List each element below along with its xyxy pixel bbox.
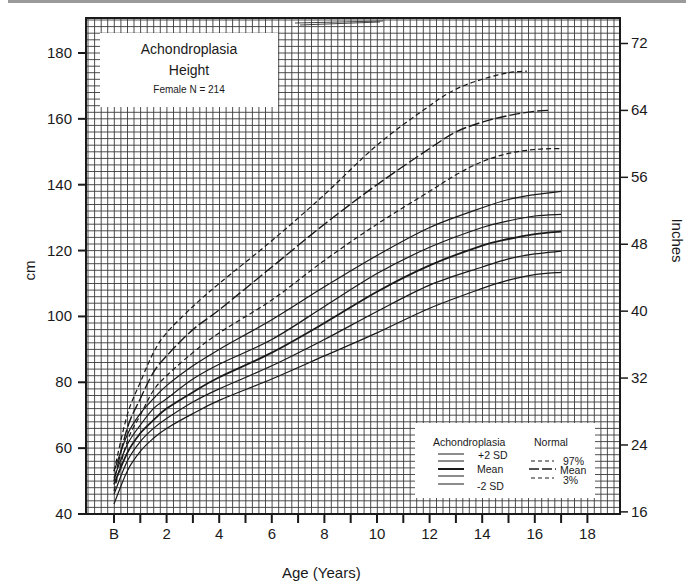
y-tick-label: 60 — [24, 439, 72, 456]
y-axis-left-title: cm — [21, 256, 38, 286]
chart-title: Achondroplasia — [100, 41, 278, 57]
y-right-tick-label: 32 — [631, 369, 648, 386]
x-tick-label: 4 — [204, 525, 234, 542]
x-tick-label: B — [99, 525, 129, 542]
chart-title-box: Achondroplasia Height Female N = 214 — [100, 33, 278, 107]
chart-legend: Achondroplasia Normal +2 SD Mean -2 SD 9… — [415, 423, 595, 498]
y-right-tick-label: 24 — [631, 436, 648, 453]
chart-subtitle: Height — [100, 62, 278, 78]
chart-sample-note: Female N = 214 — [100, 84, 278, 95]
y-tick-label: 40 — [24, 505, 72, 522]
y-tick-label: 160 — [24, 110, 72, 127]
x-tick-label: 18 — [572, 525, 602, 542]
legend-label-mean: Mean — [477, 463, 503, 475]
y-right-tick-label: 48 — [631, 235, 648, 252]
x-tick-label: 14 — [467, 525, 497, 542]
y-axis-right-title: Inches — [669, 216, 686, 266]
x-tick-label: 2 — [152, 525, 182, 542]
y-tick-label: 180 — [24, 44, 72, 61]
x-tick-label: 16 — [520, 525, 550, 542]
y-tick-label: 140 — [24, 176, 72, 193]
legend-label-plus2sd: +2 SD — [478, 449, 507, 461]
legend-label-3: 3% — [563, 474, 578, 486]
x-tick-label: 10 — [362, 525, 392, 542]
y-tick-label: 80 — [24, 373, 72, 390]
y-right-tick-label: 16 — [631, 503, 648, 520]
x-tick-label: 8 — [309, 525, 339, 542]
x-tick-label: 12 — [415, 525, 445, 542]
y-right-tick-label: 64 — [631, 101, 648, 118]
y-right-tick-label: 40 — [631, 302, 648, 319]
legend-label-minus2sd: -2 SD — [477, 480, 504, 492]
y-tick-label: 100 — [24, 307, 72, 324]
x-axis-title: Age (Years) — [282, 564, 361, 581]
x-tick-label: 6 — [257, 525, 287, 542]
y-right-tick-label: 72 — [631, 34, 648, 51]
y-right-tick-label: 56 — [631, 168, 648, 185]
